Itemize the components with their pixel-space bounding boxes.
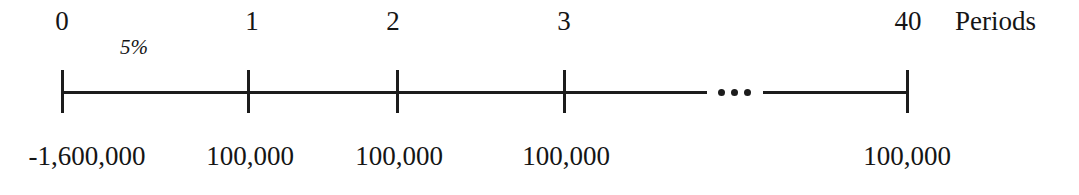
period-label-0: 0 [55, 8, 69, 35]
cashflow-value-period-2: 100,000 [355, 143, 443, 170]
period-label-2: 2 [386, 8, 400, 35]
cashflow-value-period-1: 100,000 [206, 143, 294, 170]
timeline-tick-1 [247, 70, 250, 113]
periods-axis-caption: Periods [955, 8, 1036, 35]
period-label-40: 40 [895, 8, 922, 35]
cashflow-value-period-0: -1,600,000 [29, 143, 146, 170]
timeline-axis-segment-left [62, 91, 707, 94]
cash-flow-timeline-diagram: 0 1 2 3 40 Periods 5% -1,600,000 100,000… [0, 0, 1079, 195]
timeline-tick-2 [396, 70, 399, 113]
timeline-axis-segment-right [763, 91, 909, 94]
period-label-1: 1 [245, 8, 259, 35]
interest-rate-label: 5% [120, 37, 148, 58]
cashflow-value-period-40: 100,000 [863, 143, 951, 170]
cashflow-value-period-3: 100,000 [522, 143, 610, 170]
timeline-tick-0 [61, 70, 64, 113]
timeline-tick-40 [906, 70, 909, 113]
timeline-ellipsis-icon [718, 89, 751, 96]
period-label-3: 3 [557, 8, 571, 35]
timeline-tick-3 [563, 70, 566, 113]
